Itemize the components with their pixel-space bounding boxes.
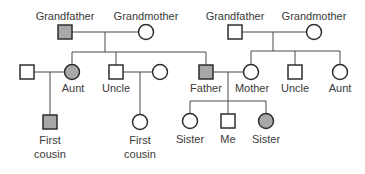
maternal-aunt-circle-icon [333, 65, 348, 80]
aunt-husband-square-icon [20, 65, 34, 79]
label-first-cousin-2-line2: cousin [124, 148, 156, 161]
paternal-aunt-circle-icon [65, 65, 80, 80]
label-paternal-uncle: Uncle [102, 82, 130, 95]
label-me: Me [220, 133, 235, 146]
label-maternal-uncle: Uncle [281, 82, 309, 95]
maternal-grandmother-circle-icon [307, 25, 322, 40]
paternal-uncle-square-icon [109, 65, 123, 79]
label-paternal-grandfather: Grandfather [36, 10, 95, 23]
father-square-icon [199, 65, 213, 79]
label-sister-1: Sister [176, 133, 204, 146]
label-maternal-aunt: Aunt [329, 82, 352, 95]
first-cousin-2-circle-icon [133, 115, 148, 130]
sister-1-circle-icon [183, 114, 198, 129]
uncle-wife-circle-icon [153, 65, 168, 80]
label-maternal-grandmother: Grandmother [282, 10, 347, 23]
label-mother: Mother [235, 82, 269, 95]
pedigree-chart: Grandfather Grandmother Grandfather Gran… [0, 0, 365, 174]
label-maternal-grandfather: Grandfather [206, 10, 265, 23]
paternal-grandmother-circle-icon [139, 25, 154, 40]
label-paternal-aunt: Aunt [62, 82, 85, 95]
me-square-icon [221, 114, 235, 128]
first-cousin-1-square-icon [43, 115, 57, 129]
sister-2-circle-icon [259, 114, 274, 129]
mother-circle-icon [244, 65, 259, 80]
label-father: Father [190, 82, 222, 95]
label-first-cousin-1-line1: First [39, 134, 60, 147]
maternal-uncle-square-icon [288, 65, 302, 79]
label-first-cousin-2-line1: First [129, 134, 150, 147]
label-first-cousin-1-line2: cousin [34, 148, 66, 161]
maternal-grandfather-square-icon [228, 25, 242, 39]
paternal-grandfather-square-icon [58, 25, 72, 39]
label-paternal-grandmother: Grandmother [114, 10, 179, 23]
label-sister-2: Sister [252, 133, 280, 146]
